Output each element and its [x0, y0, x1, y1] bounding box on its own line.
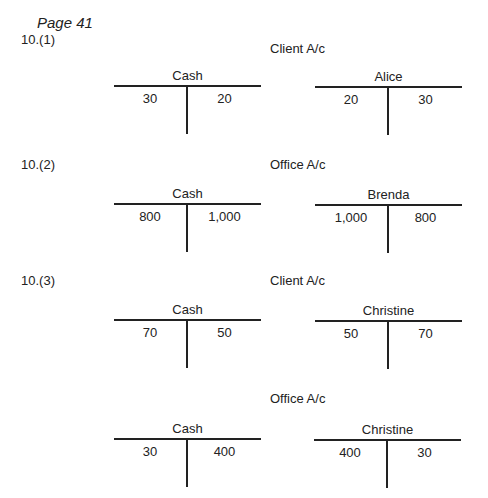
page-label: Page 41 [37, 14, 93, 31]
section-title-office-ac: Office A/c [270, 157, 325, 172]
t-account-cash: Cash 30 20 [114, 68, 261, 140]
credit-value: 400 [188, 444, 261, 459]
debit-value: 20 [315, 92, 387, 107]
question-label-10-1: 10.(1) [21, 32, 55, 47]
t-account-brenda: Brenda 1,000 800 [315, 187, 462, 259]
t-account-alice: Alice 20 30 [315, 69, 462, 141]
question-label-10-2: 10.(2) [21, 157, 55, 172]
section-title-client-ac: Client A/c [270, 41, 325, 56]
credit-value: 20 [188, 91, 261, 106]
debit-value: 800 [114, 209, 186, 224]
credit-value: 70 [389, 326, 462, 341]
account-name: Cash [114, 302, 261, 317]
debit-value: 70 [114, 325, 186, 340]
account-name: Christine [315, 303, 462, 318]
debit-value: 400 [314, 445, 386, 460]
debit-value: 50 [315, 326, 387, 341]
t-account-cash: Cash 800 1,000 [114, 186, 261, 258]
debit-value: 1,000 [315, 210, 387, 225]
t-account-cash: Cash 70 50 [114, 302, 261, 374]
account-name: Cash [114, 186, 261, 201]
question-label-10-3: 10.(3) [21, 273, 55, 288]
debit-value: 30 [114, 444, 186, 459]
credit-value: 1,000 [188, 209, 261, 224]
credit-value: 30 [389, 92, 462, 107]
account-name: Cash [114, 68, 261, 83]
credit-value: 30 [388, 445, 461, 460]
t-account-cash: Cash 30 400 [114, 421, 261, 493]
debit-value: 30 [114, 91, 186, 106]
credit-value: 50 [188, 325, 261, 340]
account-name: Alice [315, 69, 462, 84]
account-name: Christine [314, 422, 461, 437]
credit-value: 800 [389, 210, 462, 225]
t-account-christine: Christine 400 30 [314, 422, 461, 494]
account-name: Cash [114, 421, 261, 436]
t-account-christine: Christine 50 70 [315, 303, 462, 375]
section-title-office-ac: Office A/c [270, 391, 325, 406]
section-title-client-ac: Client A/c [270, 273, 325, 288]
account-name: Brenda [315, 187, 462, 202]
